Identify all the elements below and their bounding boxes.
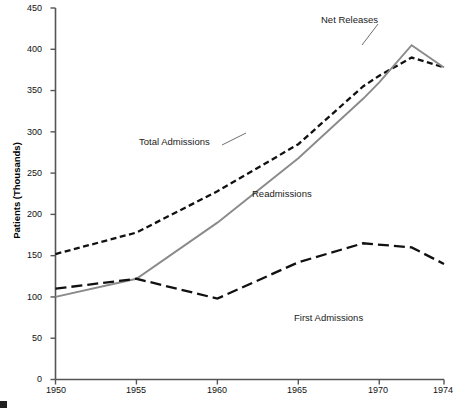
figure-caption [0, 401, 452, 409]
y-axis-title: Patients (Thousands) [11, 121, 22, 261]
x-tick-label-1974: 1974 [423, 385, 458, 395]
total-admissions-leader-line [222, 133, 246, 145]
x-tick-label-1960: 1960 [197, 385, 237, 395]
y-tick-label-100: 100 [14, 292, 42, 302]
x-tick-label-1965: 1965 [277, 385, 317, 395]
y-tick-label-50: 50 [14, 333, 42, 343]
axis-lines [56, 8, 445, 380]
y-tick-label-450: 450 [14, 3, 42, 13]
y-tick-label-400: 400 [14, 44, 42, 54]
caption-marker-icon [0, 401, 7, 408]
series-label-total-admissions: Total Admissions [139, 136, 210, 147]
series-paths [56, 45, 445, 298]
series-label-net-releases: Net Releases [321, 14, 378, 25]
series-label-readmissions: Readmissions [252, 188, 312, 199]
x-tick-label-1970: 1970 [358, 385, 398, 395]
net-releases-leader-line [362, 24, 378, 45]
series-line-net-releases [56, 45, 445, 297]
series-line-total-admissions [56, 58, 445, 254]
series-label-first-admissions: First Admissions [294, 312, 363, 323]
x-tick-label-1955: 1955 [116, 385, 156, 395]
annotation-leaders [222, 24, 378, 145]
y-tick-label-0: 0 [14, 374, 42, 384]
x-tick-label-1950: 1950 [36, 385, 76, 395]
series-line-first-admissions [56, 243, 445, 298]
y-tick-label-350: 350 [14, 85, 42, 95]
